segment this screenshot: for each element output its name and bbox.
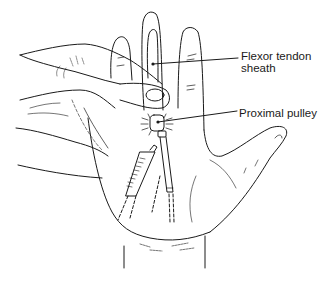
middle-finger [142,12,163,110]
hand-illustration: Flexor tendon sheath Proximal pulley [0,0,323,282]
thumb [204,126,287,232]
pulley-leader-line [158,111,237,122]
ring-finger [111,37,132,80]
proximal-pulley-label: Proximal pulley [239,107,317,119]
flexor-tendon-sheath-label: Flexor tendon sheath [241,50,311,74]
flexor-leader-line [153,58,238,64]
syringe [118,145,160,220]
palm [88,118,236,268]
flexor-tendon-sheath [147,30,158,83]
proximal-pulley-site [141,114,173,135]
index-finger [178,28,204,131]
